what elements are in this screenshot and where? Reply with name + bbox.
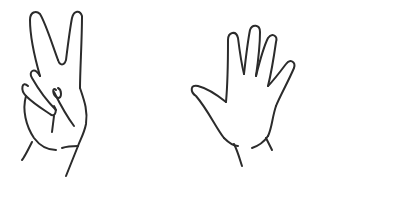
open-hand-icon (180, 10, 310, 180)
answer-blank (385, 88, 401, 108)
plus-operator: + (130, 80, 166, 117)
plus-horizontal-stroke (130, 96, 166, 101)
peace-sign-hand-drawing (0, 0, 130, 205)
peace-hand-icon (0, 0, 130, 205)
equals-bottom-stroke (344, 103, 380, 108)
equals-top-stroke (344, 88, 380, 93)
equals-operator: = (344, 88, 380, 108)
open-palm-hand-drawing (180, 10, 310, 180)
